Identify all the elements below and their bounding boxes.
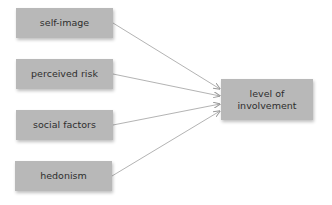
arrow-hedonism: [112, 111, 220, 176]
node-hedonism: hedonism: [15, 161, 112, 191]
node-label: social factors: [33, 119, 96, 131]
node-social-factors: social factors: [16, 110, 113, 140]
node-perceived-risk: perceived risk: [16, 59, 113, 89]
arrow-perceived-risk: [113, 74, 220, 96]
node-level-of-involvement: level of involvement: [221, 79, 313, 120]
node-label-line1: level of: [250, 88, 285, 100]
node-self-image: self-image: [16, 8, 113, 38]
node-label: self-image: [40, 17, 89, 29]
arrow-self-image: [113, 23, 220, 89]
node-label: hedonism: [40, 170, 87, 182]
arrow-social-factors: [113, 104, 220, 125]
node-label-line2: involvement: [237, 100, 296, 112]
node-label: perceived risk: [31, 68, 98, 80]
